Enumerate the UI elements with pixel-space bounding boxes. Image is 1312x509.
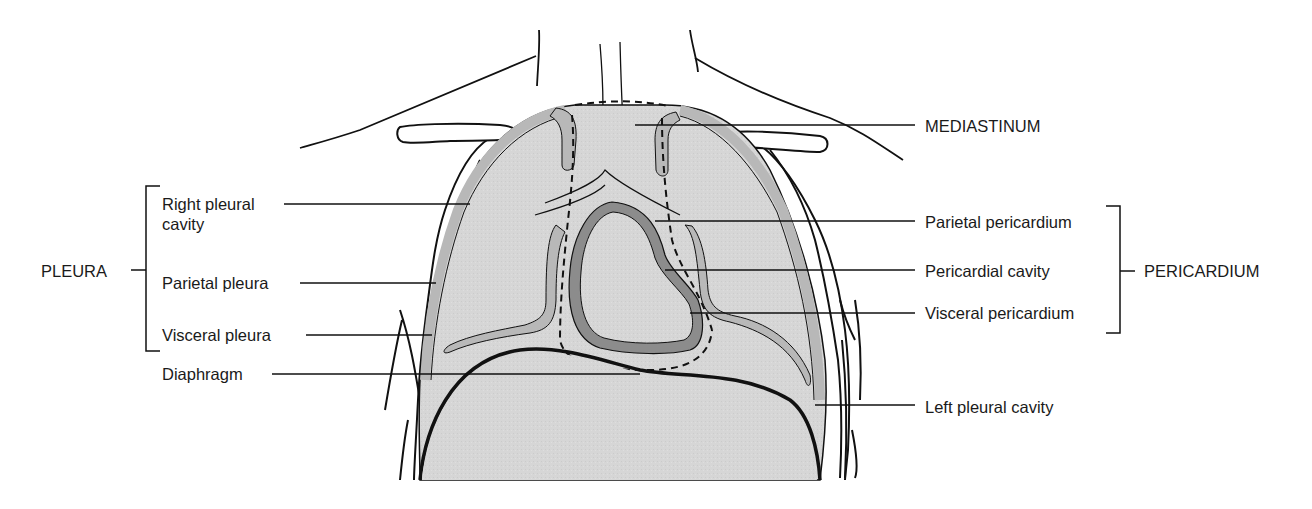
label-line: Right pleural <box>162 194 255 214</box>
thorax-diagram <box>0 0 1312 509</box>
pericardium-group-label: PERICARDIUM <box>1144 261 1260 281</box>
label-visceral-pleura: Visceral pleura <box>162 325 271 345</box>
label-diaphragm: Diaphragm <box>162 364 243 384</box>
label-mediastinum: MEDIASTINUM <box>925 116 1041 136</box>
label-parietal-pericardium: Parietal pericardium <box>925 212 1072 232</box>
label-visceral-pericardium: Visceral pericardium <box>925 303 1074 323</box>
pleura-group-label: PLEURA <box>41 261 107 281</box>
label-right-pleural-cavity: Right pleural cavity <box>162 194 255 234</box>
label-line: cavity <box>162 214 255 234</box>
label-pericardial-cavity: Pericardial cavity <box>925 261 1050 281</box>
label-left-pleural-cavity: Left pleural cavity <box>925 397 1053 417</box>
pericardium-bracket <box>1106 206 1135 333</box>
label-parietal-pleura: Parietal pleura <box>162 273 268 293</box>
pleura-bracket <box>131 186 160 351</box>
